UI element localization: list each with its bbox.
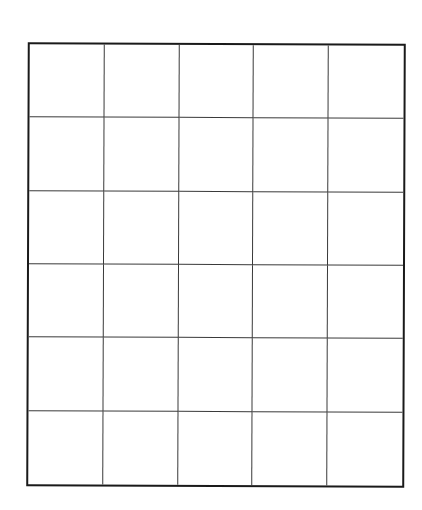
blank-grid bbox=[26, 42, 406, 487]
grid-cell bbox=[179, 118, 254, 192]
grid-cell bbox=[254, 118, 329, 192]
grid-cell bbox=[327, 412, 402, 486]
grid-cell bbox=[103, 338, 178, 412]
grid-cell bbox=[104, 191, 179, 265]
grid-cell bbox=[253, 338, 328, 412]
grid-cell bbox=[28, 411, 103, 485]
grid-cell bbox=[178, 265, 253, 339]
grid-cell bbox=[179, 45, 254, 119]
grid-cell bbox=[178, 412, 253, 486]
grid-cell bbox=[328, 119, 403, 193]
grid-cell bbox=[253, 192, 328, 266]
grid-cell bbox=[254, 45, 329, 119]
grid-cell bbox=[104, 265, 179, 339]
grid-cell bbox=[253, 412, 328, 486]
grid-cell bbox=[28, 338, 103, 412]
grid-cell bbox=[329, 45, 404, 119]
grid-cell bbox=[328, 339, 403, 413]
grid-cell bbox=[104, 118, 179, 192]
grid-cell bbox=[103, 411, 178, 485]
grid-cell bbox=[104, 45, 179, 119]
grid-cell bbox=[253, 265, 328, 339]
grid-cell bbox=[178, 338, 253, 412]
grid-cell bbox=[29, 118, 104, 192]
grid-cell bbox=[29, 191, 104, 265]
grid-cell bbox=[328, 192, 403, 266]
grid-cell bbox=[29, 264, 104, 338]
grid-cell bbox=[179, 192, 254, 266]
grid-cell bbox=[30, 44, 105, 118]
grid-cell bbox=[328, 265, 403, 339]
